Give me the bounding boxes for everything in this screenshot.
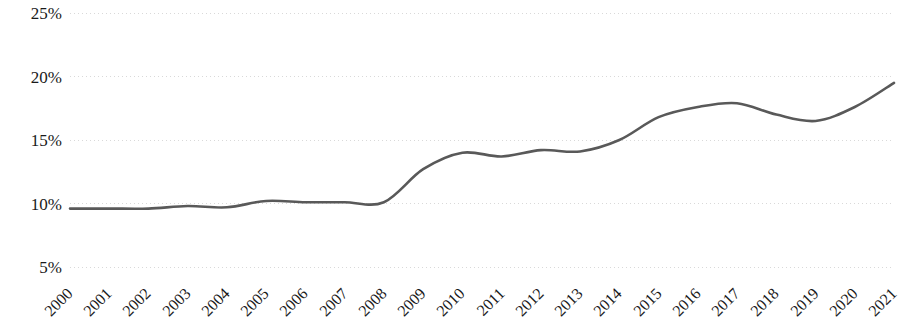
x-axis-tick-label: 2005 <box>176 285 272 331</box>
x-axis-tick-label: 2009 <box>333 285 429 331</box>
y-axis-tick-label: 5% <box>2 259 62 276</box>
x-axis-tick-label: 2006 <box>215 285 311 331</box>
x-axis-tick-label: 2004 <box>136 285 232 331</box>
x-axis-tick-label: 2015 <box>568 285 664 331</box>
x-axis-tick-label: 2010 <box>372 285 468 331</box>
x-axis-tick-label: 2011 <box>411 285 507 331</box>
data-series-line <box>70 83 894 209</box>
x-axis-tick-label: 2012 <box>450 285 546 331</box>
x-axis-tick-label: 2014 <box>529 285 625 331</box>
x-axis-tick-label: 2003 <box>97 285 193 331</box>
line-chart: 5%10%15%20%25% 2000200120022003200420052… <box>0 0 900 331</box>
x-axis-tick-label: 2017 <box>647 285 743 331</box>
x-axis-tick-label: 2016 <box>607 285 703 331</box>
x-axis-tick-label: 2019 <box>725 285 821 331</box>
plot-area <box>70 13 894 267</box>
y-axis-tick-label: 10% <box>2 195 62 212</box>
x-axis-tick-label: 2008 <box>293 285 389 331</box>
x-axis-tick-label: 2001 <box>19 285 115 331</box>
x-axis-tick-label: 2020 <box>764 285 860 331</box>
x-axis-tick-label: 2007 <box>254 285 350 331</box>
x-axis-tick-label: 2013 <box>490 285 586 331</box>
x-axis-tick-label: 2002 <box>58 285 154 331</box>
y-axis-tick-label: 15% <box>2 132 62 149</box>
y-axis-tick-label: 25% <box>2 5 62 22</box>
y-axis-tick-label: 20% <box>2 68 62 85</box>
x-axis-tick-label: 2021 <box>803 285 899 331</box>
data-line-layer <box>70 13 894 267</box>
x-axis-tick-label: 2000 <box>0 285 76 331</box>
x-axis-tick-label: 2018 <box>686 285 782 331</box>
